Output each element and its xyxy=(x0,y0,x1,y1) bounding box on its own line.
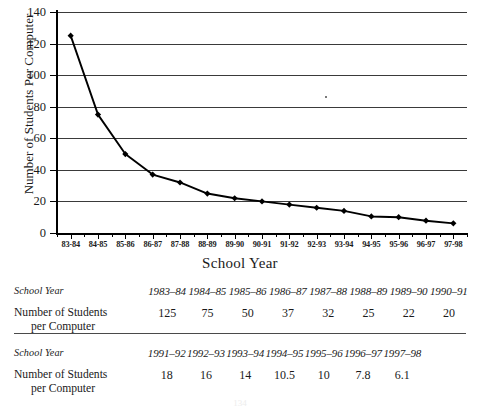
x-axis-minor-tick xyxy=(467,233,468,237)
y-axis-tick xyxy=(50,138,58,139)
column-header-year: 1996–97 xyxy=(343,347,382,359)
x-axis-minor-tick xyxy=(194,233,195,237)
column-header-year: 1991–92 xyxy=(147,347,186,359)
y-axis-tick-label: 40 xyxy=(0,164,46,177)
y-axis-tick-label: 120 xyxy=(0,38,46,51)
x-axis-tick-label: 87-88 xyxy=(171,240,189,249)
x-axis-tick-label: 83-84 xyxy=(61,240,79,249)
x-axis-tick xyxy=(235,233,236,239)
table-row-years: School Year 1991–92 1992–93 1993–94 1994… xyxy=(14,347,469,359)
table-divider-rule xyxy=(14,333,466,334)
y-axis-tick-label: 0 xyxy=(0,227,46,240)
x-axis-minor-tick xyxy=(221,233,222,237)
row-header-line1: Number of Students xyxy=(14,306,107,319)
table-spacer-row xyxy=(14,359,469,368)
x-axis-title: School Year xyxy=(0,255,480,272)
y-axis-tick xyxy=(50,75,58,76)
x-axis-tick xyxy=(399,233,400,239)
table-spacer-cell xyxy=(14,359,469,368)
x-axis-tick-label: 95-96 xyxy=(389,240,407,249)
column-header-year: 1993–94 xyxy=(226,347,265,359)
page-number: 134 xyxy=(0,398,480,408)
table-cell-value: 10.5 xyxy=(265,368,304,395)
x-axis-minor-tick xyxy=(330,233,331,237)
gridline xyxy=(57,44,467,45)
column-header-year: 1992–93 xyxy=(186,347,225,359)
x-axis-tick-label: 93-94 xyxy=(335,240,353,249)
x-axis-tick-label: 84-85 xyxy=(89,240,107,249)
y-axis-tick-label: 140 xyxy=(0,6,46,19)
column-header-year: 1983–84 xyxy=(147,285,187,297)
gridline xyxy=(57,138,467,139)
x-axis-minor-tick xyxy=(112,233,113,237)
x-axis-tick xyxy=(344,233,345,239)
gridline xyxy=(57,170,467,171)
x-axis-tick xyxy=(262,233,263,239)
row-header-school-year: School Year xyxy=(14,285,147,297)
y-axis-tick xyxy=(50,107,58,108)
table-row-values: Number of Students per Computer 18 16 14… xyxy=(14,368,469,395)
table-cell-value: 10 xyxy=(304,368,343,395)
row-header-line1: Number of Students xyxy=(14,368,107,381)
page-speck xyxy=(325,96,327,98)
x-axis-tick-label: 86-87 xyxy=(143,240,161,249)
table-cell-value: 32 xyxy=(308,306,348,333)
x-axis-tick xyxy=(98,233,99,239)
gridline xyxy=(57,107,467,108)
x-axis-tick-label: 94-95 xyxy=(362,240,380,249)
table-empty-cell xyxy=(422,347,469,359)
table-cell-value: 7.8 xyxy=(343,368,382,395)
table-cell-value: 14 xyxy=(226,368,265,395)
table-spacer-row xyxy=(14,297,469,306)
x-axis-minor-tick xyxy=(385,233,386,237)
row-header-line2: per Computer xyxy=(14,382,147,396)
x-axis-tick xyxy=(125,233,126,239)
table-empty-cell xyxy=(422,368,469,395)
x-axis-tick xyxy=(289,233,290,239)
x-axis-minor-tick xyxy=(139,233,140,237)
column-header-year: 1997–98 xyxy=(383,347,422,359)
x-axis-tick xyxy=(71,233,72,239)
x-axis-tick-label: 85-86 xyxy=(116,240,134,249)
x-axis-minor-tick xyxy=(276,233,277,237)
x-axis-tick xyxy=(426,233,427,239)
table-cell-value: 125 xyxy=(147,306,187,333)
x-axis-tick xyxy=(207,233,208,239)
column-header-year: 1990–91 xyxy=(429,285,469,297)
y-axis-tick xyxy=(50,12,58,13)
y-axis-tick-label: 80 xyxy=(0,101,46,114)
column-header-year: 1995–96 xyxy=(304,347,343,359)
y-axis-tick xyxy=(50,44,58,45)
data-table-1: School Year 1983–84 1984–85 1985–86 1986… xyxy=(14,285,469,333)
x-axis-tick xyxy=(317,233,318,239)
x-axis-minor-tick xyxy=(166,233,167,237)
x-axis-tick-label: 96-97 xyxy=(417,240,435,249)
x-axis-tick xyxy=(180,233,181,239)
column-header-year: 1989–90 xyxy=(389,285,429,297)
column-header-year: 1988–89 xyxy=(348,285,388,297)
x-axis-minor-tick xyxy=(248,233,249,237)
column-header-year: 1994–95 xyxy=(265,347,304,359)
y-axis-tick-label: 20 xyxy=(0,195,46,208)
column-header-year: 1986–87 xyxy=(268,285,308,297)
y-axis-tick xyxy=(50,170,58,171)
x-axis-tick-label: 88-89 xyxy=(198,240,216,249)
x-axis-tick xyxy=(153,233,154,239)
table-cell-value: 75 xyxy=(187,306,227,333)
table-spacer-cell xyxy=(14,297,469,306)
table-cell-value: 25 xyxy=(348,306,388,333)
plot-area xyxy=(57,12,467,233)
x-axis-minor-tick xyxy=(358,233,359,237)
x-axis-tick-label: 90-91 xyxy=(253,240,271,249)
x-axis-tick xyxy=(371,233,372,239)
x-axis-tick-label: 97-98 xyxy=(444,240,462,249)
x-axis-minor-tick xyxy=(440,233,441,237)
column-header-year: 1984–85 xyxy=(187,285,227,297)
students-per-computer-line-chart: Number of Students Per Computer School Y… xyxy=(0,0,480,278)
table-cell-value: 50 xyxy=(228,306,268,333)
x-axis-tick-label: 92-93 xyxy=(307,240,325,249)
table-cell-value: 20 xyxy=(429,306,469,333)
y-axis-tick xyxy=(50,201,58,202)
x-axis-tick xyxy=(453,233,454,239)
table-cell-value: 37 xyxy=(268,306,308,333)
